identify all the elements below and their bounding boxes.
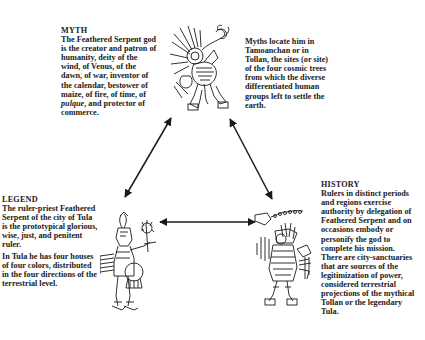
ruler-impersonator-icon <box>253 209 315 309</box>
arrow-myth-legend <box>125 118 171 197</box>
tula-ruler-icon <box>100 212 160 314</box>
feathered-serpent-god-icon <box>168 24 234 114</box>
arrow-myth-history <box>230 119 272 199</box>
